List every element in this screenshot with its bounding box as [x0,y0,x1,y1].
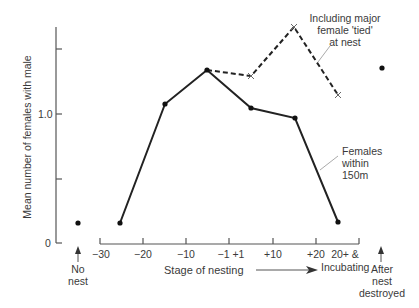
leader-dashed [318,46,330,62]
no-nest-arrow [75,246,81,262]
x-tick-minus1-plus1: −1 +1 [211,248,251,260]
y-axis-label: Mean number of females with male [21,47,33,227]
y-axis [56,27,62,243]
x-tick-plus10: +10 [258,248,288,260]
y-tick-1: 1.0 [38,108,53,120]
leader-solid [320,156,338,170]
x-tick-minus20: −20 [128,248,158,260]
x-axis-label: Stage of nesting [164,264,244,276]
annotation-including-tied-female: Including major female 'tied' at nest [305,12,385,48]
no-nest-label-line1: No [63,263,93,275]
no-nest-point [75,220,80,225]
x-tick-20plus: 20+ & [325,248,365,260]
x-label-arrow [256,266,318,274]
after-label-line3: destroyed [356,287,408,299]
series-females-within-150m [117,67,340,225]
after-label-line1: After [356,263,408,275]
after-nest-arrow [378,246,384,262]
x-tick-minus30: −30 [86,248,116,260]
x-axis [100,238,359,244]
no-nest-label-line2: nest [63,275,93,287]
annotation-dashed-line3: at nest [305,36,385,48]
annotation-dashed-line1: Including major [305,12,385,24]
after-nest-point [379,65,384,70]
after-nest-destroyed-label: After nest destroyed [356,263,408,299]
annotation-females-within-150m: Females within 150m [342,145,382,181]
annotation-solid-line3: 150m [342,169,382,181]
no-nest-label: No nest [63,263,93,287]
annotation-solid-line1: Females [342,145,382,157]
y-tick-0: 0 [45,237,51,249]
annotation-dashed-line2: female 'tied' [305,24,385,36]
annotation-solid-line2: within [342,157,382,169]
after-label-line2: nest [356,275,408,287]
x-tick-minus10: −10 [171,248,201,260]
